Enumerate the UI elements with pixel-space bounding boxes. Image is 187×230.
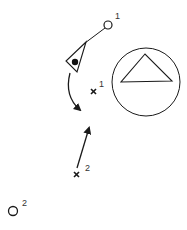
straight-arrow-icon: [77, 128, 89, 168]
pointer-triangle-icon: [66, 42, 86, 72]
circle-1-label: 1: [115, 12, 120, 21]
circle-2-label: 2: [22, 199, 27, 208]
cross-2-label: 2: [85, 164, 90, 173]
cross-1-label: 1: [99, 80, 104, 89]
cross-2-icon: [74, 172, 79, 177]
open-circle-1-icon: [104, 21, 112, 29]
curved-arrow-icon: [68, 73, 80, 110]
diagram-canvas: [0, 0, 187, 230]
open-circle-2-icon: [9, 207, 18, 216]
cross-1-icon: [91, 89, 96, 94]
connector-line: [85, 28, 105, 43]
filled-dot-icon: [72, 59, 78, 65]
